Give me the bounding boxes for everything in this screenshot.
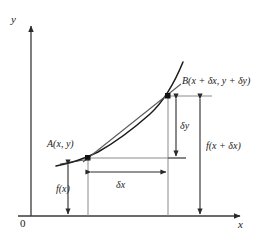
delta-x-label: δx: [116, 180, 125, 190]
y-axis-label: y: [11, 14, 16, 25]
point-b-label: B(x + δx, y + δy): [182, 76, 250, 86]
f-of-x-plus-delta-x-label: f(x + δx): [206, 141, 241, 151]
delta-y-label: δy: [180, 121, 189, 131]
derivative-diagram: [0, 0, 269, 249]
figure-canvas: y x 0 A(x, y) B(x + δx, y + δy) δy δx f(…: [0, 0, 269, 249]
point-a-label: A(x, y): [47, 139, 74, 149]
dimension-fx-tick: [60, 159, 90, 164]
f-of-x-label: f(x): [56, 184, 70, 194]
x-axis-label: x: [238, 219, 243, 230]
origin-label: 0: [20, 218, 26, 229]
function-curve: [56, 62, 183, 166]
point-marker-b: [165, 93, 171, 99]
axis-group: [18, 26, 240, 216]
